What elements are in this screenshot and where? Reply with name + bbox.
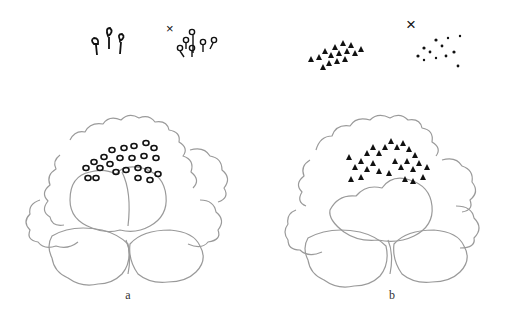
incorrect-mark-a: × <box>166 22 174 35</box>
stamen-example-incorrect <box>177 29 216 57</box>
panel-label-b: b <box>382 288 402 303</box>
peony-b-drawing <box>260 0 519 310</box>
stamens-hollow <box>83 141 161 183</box>
stamen-example-correct <box>308 40 364 70</box>
figure-panel-a: × a <box>0 0 259 310</box>
panel-label-a: a <box>118 288 138 303</box>
figure-panel-b: × b <box>260 0 519 310</box>
incorrect-mark-b: × <box>406 16 416 33</box>
stamen-example-incorrect <box>416 35 461 68</box>
stamen-example-correct <box>92 28 124 55</box>
stamens-solid <box>346 138 430 184</box>
peony-a-drawing <box>0 0 259 310</box>
